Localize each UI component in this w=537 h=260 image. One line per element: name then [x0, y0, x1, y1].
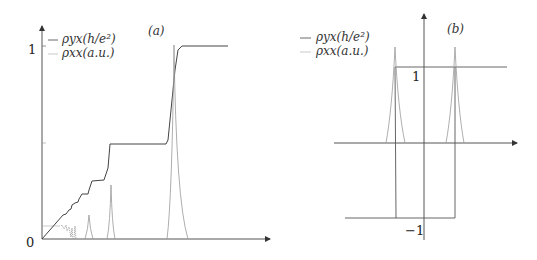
a-rho-xx-peaks [85, 45, 188, 239]
b-legend-yx: ρyx(h/e²) [315, 30, 370, 44]
b-rho-xx-peaks [386, 47, 464, 143]
panel-a: 1 0 (a) ρyx(h/e²) ρxx(a.u.) [26, 24, 270, 250]
figure: 1 0 (a) ρyx(h/e²) ρxx(a.u.) (b) ρyx(h/e²… [0, 0, 537, 260]
a-legend-xx: ρxx(a.u.) [61, 46, 115, 60]
b-y-label-1: 1 [412, 69, 420, 84]
b-y-label-minus-1: −1 [405, 223, 424, 238]
a-title: (a) [148, 24, 165, 38]
a-y-label-1: 1 [28, 42, 36, 57]
a-y-label-0: 0 [26, 235, 34, 250]
b-legend-xx: ρxx(a.u.) [315, 44, 369, 58]
a-rho-xx-curve [61, 225, 76, 239]
b-title: (b) [447, 22, 464, 36]
a-rho-yx-curve [42, 46, 228, 239]
a-legend-yx: ρyx(h/e²) [61, 32, 116, 46]
panel-b: (b) ρyx(h/e²) ρxx(a.u.) 1 −1 [300, 14, 517, 240]
